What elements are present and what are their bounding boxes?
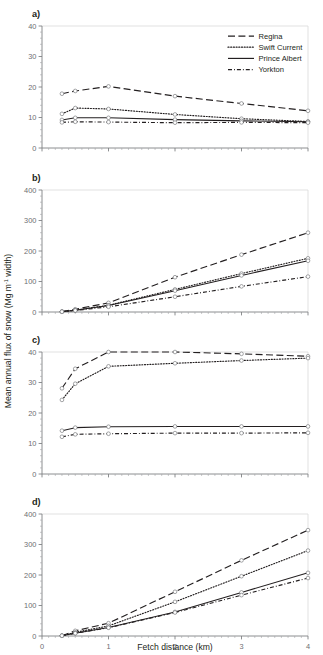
data-point-yorkton [173, 295, 177, 299]
legend: ReginaSwift CurrentPrince AlbertYorkton [228, 32, 303, 75]
data-point-yorkton [240, 431, 244, 435]
data-point-yorkton [306, 431, 310, 435]
series-line-yorkton [62, 122, 308, 123]
x-tick-label: 4 [306, 642, 310, 651]
data-point-swift-current [73, 382, 77, 386]
data-point-yorkton [107, 120, 111, 124]
data-point-swift-current [306, 549, 310, 553]
y-tick-label: 200 [24, 571, 36, 580]
legend-label-yorkton: Yorkton [259, 65, 284, 74]
data-point-regina [240, 559, 244, 563]
data-point-yorkton [240, 593, 244, 597]
panel-a: a)010203040 [28, 9, 310, 153]
series-line-regina [62, 530, 308, 636]
y-tick-label: 100 [24, 277, 36, 286]
y-tick-label: 0 [32, 144, 36, 153]
series-line-swift-current [62, 551, 308, 636]
data-point-prince-albert [306, 571, 310, 575]
data-point-regina [173, 350, 177, 354]
y-tick-label: 40 [28, 22, 36, 31]
data-point-regina [306, 528, 310, 532]
figure-container: a)010203040b)0100200300400c)010203040d)0… [0, 0, 323, 655]
legend-label-swift-current: Swift Current [259, 43, 304, 52]
snow-flux-figure: a)010203040b)0100200300400c)010203040d)0… [0, 0, 323, 655]
data-point-yorkton [306, 275, 310, 279]
data-point-yorkton [73, 309, 77, 313]
data-point-prince-albert [107, 425, 111, 429]
panel-label: a) [32, 9, 40, 19]
data-point-prince-albert [240, 425, 244, 429]
y-tick-label: 100 [24, 601, 36, 610]
data-point-regina [306, 109, 310, 113]
y-tick-label: 300 [24, 540, 36, 549]
data-point-swift-current [60, 112, 64, 116]
y-tick-label: 400 [24, 510, 36, 519]
data-point-prince-albert [73, 116, 77, 120]
data-point-regina [240, 253, 244, 257]
data-point-prince-albert [107, 116, 111, 120]
x-tick-label: 3 [239, 642, 243, 651]
data-point-yorkton [107, 305, 111, 309]
legend-label-regina: Regina [259, 32, 284, 41]
data-point-regina [60, 386, 64, 390]
series-line-regina [62, 233, 308, 312]
series-line-regina [62, 86, 308, 110]
data-point-yorkton [107, 626, 111, 630]
data-point-prince-albert [240, 274, 244, 278]
data-point-regina [107, 350, 111, 354]
data-point-swift-current [173, 361, 177, 365]
data-point-regina [240, 352, 244, 356]
data-point-swift-current [60, 398, 64, 402]
data-point-swift-current [173, 600, 177, 604]
y-tick-label: 40 [28, 348, 36, 357]
data-point-yorkton [306, 576, 310, 580]
data-point-yorkton [240, 121, 244, 125]
series-line-swift-current [62, 358, 308, 400]
data-point-swift-current [240, 359, 244, 363]
data-point-yorkton [306, 121, 310, 125]
data-point-yorkton [173, 121, 177, 125]
data-point-yorkton [73, 120, 77, 124]
data-point-swift-current [107, 107, 111, 111]
y-tick-label: 30 [28, 52, 36, 61]
y-tick-label: 0 [32, 632, 36, 641]
data-point-regina [73, 89, 77, 93]
x-tick-label: 0 [40, 642, 44, 651]
y-tick-label: 0 [32, 308, 36, 317]
data-point-swift-current [107, 364, 111, 368]
panel-d: d)010020030040001234 [24, 497, 310, 651]
y-tick-label: 20 [28, 409, 36, 418]
data-point-swift-current [240, 574, 244, 578]
panel-label: d) [32, 497, 41, 507]
series-line-regina [62, 352, 308, 388]
data-point-yorkton [60, 634, 64, 638]
data-point-regina [306, 231, 310, 235]
y-tick-label: 0 [32, 470, 36, 479]
data-point-yorkton [240, 285, 244, 289]
y-axis-title: Mean annual flux of snow (Mg m-1 width) [3, 254, 13, 408]
data-point-yorkton [173, 431, 177, 435]
data-point-regina [107, 85, 111, 89]
data-point-prince-albert [73, 426, 77, 430]
data-point-prince-albert [306, 425, 310, 429]
data-point-prince-albert [173, 289, 177, 293]
legend-label-prince-albert: Prince Albert [259, 54, 303, 63]
data-point-yorkton [107, 432, 111, 436]
series-line-prince-albert [62, 261, 308, 312]
data-point-regina [173, 590, 177, 594]
data-point-prince-albert [306, 259, 310, 263]
data-point-swift-current [173, 113, 177, 117]
y-tick-label: 10 [28, 439, 36, 448]
data-point-swift-current [306, 356, 310, 360]
y-tick-label: 20 [28, 83, 36, 92]
data-point-yorkton [73, 433, 77, 437]
y-tick-label: 300 [24, 216, 36, 225]
x-axis-title: Fetch distance (km) [137, 642, 213, 652]
panel-b: b)0100200300400 [24, 173, 310, 317]
data-point-regina [60, 92, 64, 96]
y-tick-label: 400 [24, 186, 36, 195]
series-line-prince-albert [62, 573, 308, 636]
data-point-yorkton [173, 611, 177, 615]
y-tick-label: 10 [28, 113, 36, 122]
series-line-swift-current [62, 258, 308, 311]
